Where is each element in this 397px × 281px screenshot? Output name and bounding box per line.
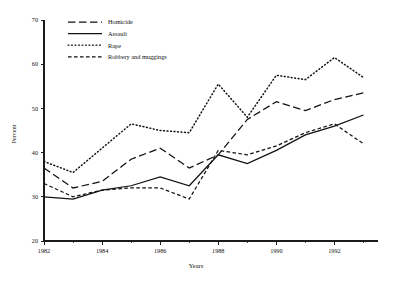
y-axis-tick-label: 20: [32, 237, 38, 244]
x-axis-tick-label: 1984: [96, 247, 108, 254]
y-axis-tick-label: 60: [32, 60, 38, 67]
legend-label-robbery-and-muggings: Robbery and muggings: [108, 53, 167, 60]
y-axis-title: Percent: [10, 124, 17, 143]
chart-canvas: 203040506070 198219841986198819901992 Ho…: [0, 0, 397, 281]
y-axis-tick-label: 70: [32, 16, 38, 23]
y-axis-tick-label: 30: [32, 193, 38, 200]
x-axis-tick-label: 1990: [270, 247, 282, 254]
legend-label-homicide: Homicide: [108, 18, 133, 25]
y-axis-tick-label: 50: [32, 105, 38, 112]
x-axis-tick-label: 1982: [38, 247, 50, 254]
x-axis-title: Years: [189, 262, 204, 269]
x-axis-tick-label: 1986: [154, 247, 166, 254]
y-axis-tick-label: 40: [32, 149, 38, 156]
x-axis-tick-label: 1988: [212, 247, 224, 254]
chart-background: [0, 0, 397, 281]
crime-trend-chart: 203040506070 198219841986198819901992 Ho…: [0, 0, 397, 281]
legend-label-rape: Rape: [108, 42, 121, 49]
legend-label-assault: Assault: [108, 30, 127, 37]
x-axis-tick-label: 1992: [328, 247, 340, 254]
